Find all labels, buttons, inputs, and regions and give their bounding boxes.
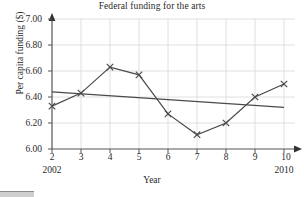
y-axis-arrow-icon [49, 13, 56, 21]
x-axis-line [52, 146, 302, 153]
y-axis-line [49, 13, 56, 149]
plot-area [0, 0, 304, 197]
gridlines-horizontal [52, 19, 295, 123]
chart-container: Federal funding for the arts Per capita … [0, 0, 304, 197]
bottom-left-marker [0, 191, 34, 197]
x-axis-ticks [52, 149, 284, 153]
x-axis-arrow-icon [294, 146, 302, 153]
gridlines-vertical [81, 19, 284, 149]
